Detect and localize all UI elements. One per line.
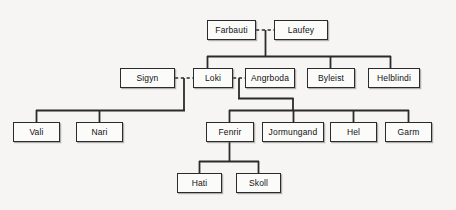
node-label: Sigyn <box>134 73 160 82</box>
node-farbauti[interactable]: Farbauti <box>207 20 256 40</box>
node-label: Garm <box>396 127 422 136</box>
node-label: Fenrir <box>216 127 243 136</box>
node-fenrir[interactable]: Fenrir <box>206 122 254 142</box>
node-label: Skoll <box>247 178 270 187</box>
node-jormungand[interactable]: Jormungand <box>262 122 324 142</box>
node-hati[interactable]: Hati <box>177 173 222 193</box>
node-label: Farbauti <box>213 25 249 34</box>
descent-fenrir-connector <box>199 142 259 173</box>
node-helblindi[interactable]: Helblindi <box>368 68 420 88</box>
node-nari[interactable]: Nari <box>76 122 123 142</box>
node-loki[interactable]: Loki <box>193 68 233 88</box>
node-hel[interactable]: Hel <box>330 122 377 142</box>
node-vali[interactable]: Vali <box>13 122 60 142</box>
family-tree-diagram: Farbauti Laufey Sigyn Loki Angrboda Byle… <box>0 0 456 210</box>
node-label: Hel <box>345 127 362 136</box>
node-label: Loki <box>203 73 223 82</box>
node-label: Vali <box>27 127 45 136</box>
node-label: Laufey <box>286 25 316 34</box>
node-label: Nari <box>89 127 109 136</box>
node-angrboda[interactable]: Angrboda <box>245 68 295 88</box>
node-skoll[interactable]: Skoll <box>236 173 281 193</box>
node-label: Helblindi <box>375 73 413 82</box>
node-label: Byleist <box>316 73 346 82</box>
node-label: Hati <box>190 178 210 187</box>
node-byleist[interactable]: Byleist <box>307 68 355 88</box>
node-label: Jormungand <box>267 127 320 136</box>
node-label: Angrboda <box>249 73 291 82</box>
node-garm[interactable]: Garm <box>385 122 432 142</box>
node-laufey[interactable]: Laufey <box>274 20 328 40</box>
node-sigyn[interactable]: Sigyn <box>120 68 175 88</box>
